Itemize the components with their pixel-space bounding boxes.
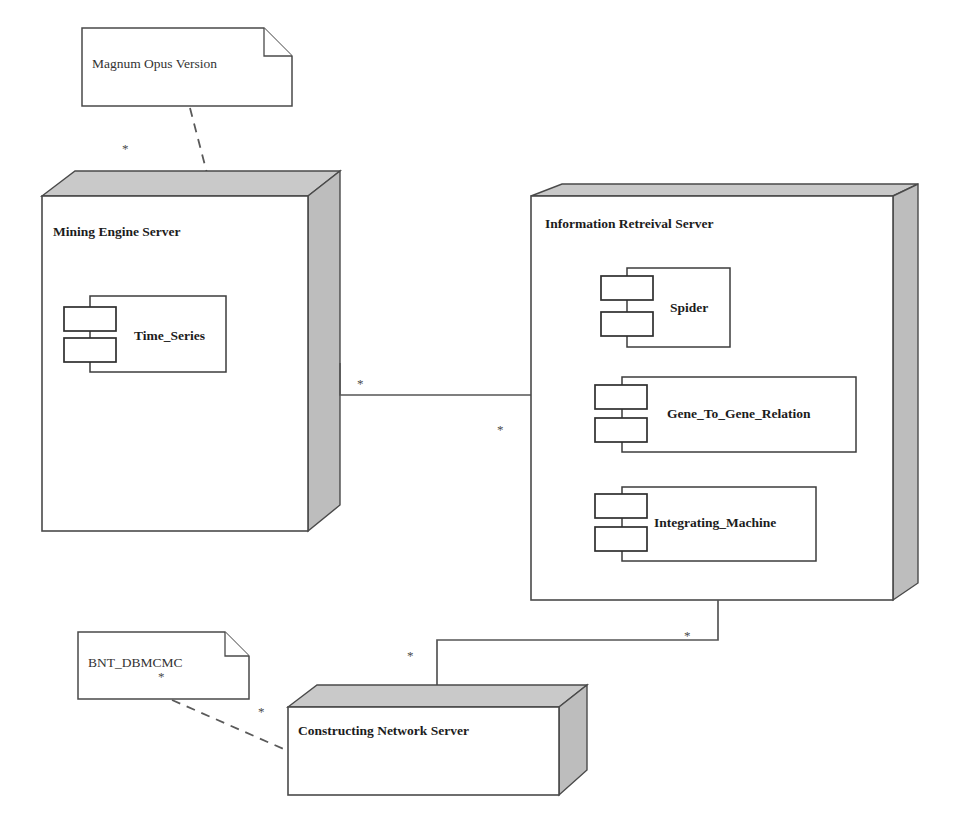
node-information-retreival-server[interactable]: Information Retreival Server Spider Gene… [531, 184, 918, 600]
component-time-series-label: Time_Series [134, 328, 205, 343]
assoc-mining-to-retreival[interactable]: * * [340, 363, 531, 437]
component-spider-tab-lower-icon [601, 312, 653, 336]
note-magnum-opus-label: Magnum Opus Version [92, 56, 217, 71]
multiplicity-marker-m5: * [407, 648, 414, 663]
node-constructing-network-server-front-face [288, 707, 559, 795]
component-gene-to-gene-relation[interactable]: Gene_To_Gene_Relation [595, 377, 856, 452]
note-bnt-dbmcmc[interactable]: BNT_DBMCMC [78, 632, 249, 699]
node-information-retreival-server-label: Information Retreival Server [545, 216, 713, 231]
component-time-series-tab-lower-icon [64, 338, 116, 362]
node-constructing-network-server-top-face [288, 685, 587, 707]
node-information-retreival-server-side-face [893, 184, 918, 600]
component-time-series-tab-upper-icon [64, 307, 116, 331]
multiplicity-marker-m1: * [122, 141, 129, 156]
node-mining-engine-server-top-face [42, 171, 340, 196]
node-mining-engine-server[interactable]: Mining Engine Server Time_Series [42, 171, 340, 531]
component-gene-to-gene-relation-label: Gene_To_Gene_Relation [667, 406, 811, 421]
node-constructing-network-server-label: Constructing Network Server [298, 723, 469, 738]
node-information-retreival-server-top-face [531, 184, 918, 196]
note-bnt-dbmcmc-label: BNT_DBMCMC [88, 655, 183, 670]
component-gene-to-gene-relation-tab-upper-icon [595, 385, 647, 409]
node-constructing-network-server[interactable]: Constructing Network Server [288, 685, 587, 795]
component-integrating-machine-tab-lower-icon [595, 527, 647, 551]
uml-deployment-diagram: Magnum Opus Version * Mining Engine Serv… [0, 0, 954, 839]
multiplicity-marker-m2: * [357, 376, 364, 391]
assoc-mining-to-retreival-line [340, 363, 531, 395]
multiplicity-marker-m4: * [684, 628, 691, 643]
component-integrating-machine-label: Integrating_Machine [654, 515, 776, 530]
node-mining-engine-server-label: Mining Engine Server [53, 224, 181, 239]
note-magnum-opus[interactable]: Magnum Opus Version [82, 28, 292, 106]
component-spider-tab-upper-icon [601, 276, 653, 300]
dep-bnt-to-constructing-line [172, 700, 295, 754]
component-gene-to-gene-relation-tab-lower-icon [595, 418, 647, 442]
multiplicity-marker-m6b: * [258, 704, 265, 719]
component-integrating-machine-tab-upper-icon [595, 494, 647, 518]
component-spider-label: Spider [670, 300, 708, 315]
multiplicity-marker-m3: * [497, 422, 504, 437]
multiplicity-marker-m6: * [158, 669, 165, 684]
component-integrating-machine[interactable]: Integrating_Machine [595, 487, 816, 561]
node-mining-engine-server-side-face [308, 171, 340, 531]
